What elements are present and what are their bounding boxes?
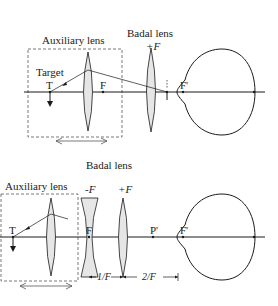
badal-lens: [147, 48, 156, 132]
top-target-label: Target: [36, 67, 64, 78]
bottom-panel: [0, 194, 265, 289]
target-arrow-icon: [47, 101, 53, 107]
bottom-auxiliary-label: Auxiliary lens: [5, 181, 68, 192]
bottom-badal-label: Badal lens: [86, 160, 132, 171]
positive-lens: [119, 198, 128, 277]
negative-lens-power: -F: [85, 184, 95, 195]
dimension-2-over-f: 2/F: [142, 272, 156, 282]
dimension-1-over-f: 1/F: [97, 272, 111, 282]
bottom-eye-focal-point: F': [180, 225, 188, 236]
top-badal-power: +F: [146, 41, 160, 52]
top-auxiliary-label: Auxiliary lens: [42, 35, 105, 46]
top-eye-focal-point: F': [180, 80, 188, 91]
auxiliary-lens-bottom: [47, 198, 56, 276]
bottom-principal-point: P': [150, 225, 158, 236]
bottom-target-point: T: [9, 225, 16, 236]
top-badal-label: Badal lens: [127, 28, 173, 39]
top-panel: [24, 48, 265, 144]
auxiliary-lens: [84, 52, 93, 131]
top-target-point: T: [46, 80, 53, 91]
target-arrow-icon-bottom: [10, 246, 16, 252]
auxiliary-box: [28, 49, 122, 137]
top-focal-point: F: [100, 80, 106, 91]
positive-lens-power: +F: [118, 184, 132, 195]
bottom-focal-point: F: [86, 225, 92, 236]
